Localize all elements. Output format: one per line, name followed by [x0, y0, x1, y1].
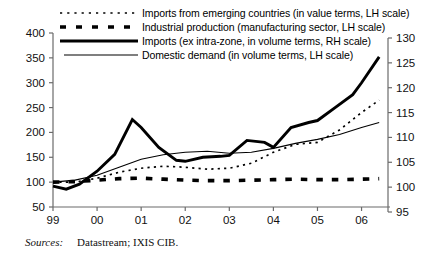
x-axis-tick-label: 00	[91, 214, 104, 226]
left-axis-tick-label: 250	[26, 102, 45, 114]
left-axis: 50100150200250300350400	[26, 27, 53, 213]
x-axis-tick-label: 04	[267, 214, 280, 226]
series-line	[53, 57, 379, 189]
source-label: Sources:	[25, 236, 63, 248]
right-axis-tick-label: 95	[396, 206, 409, 218]
right-axis-tick-label: 115	[396, 107, 414, 119]
chart-plot: 50100150200250300350400 9510010511011512…	[0, 0, 440, 259]
right-axis-tick-label: 130	[396, 32, 415, 44]
right-axis-tick-label: 125	[396, 57, 415, 69]
left-axis-tick-label: 150	[26, 151, 45, 163]
source-note: Sources:Datastream; IXIS CIB.	[25, 236, 178, 248]
series-line	[53, 178, 379, 182]
x-axis-tick-label: 01	[135, 214, 148, 226]
series-line	[53, 122, 379, 182]
left-axis-tick-label: 350	[26, 52, 45, 64]
left-axis-tick-label: 200	[26, 126, 45, 138]
right-axis: 95100105110115120125130	[388, 32, 415, 218]
right-axis-tick-label: 110	[396, 131, 414, 143]
x-axis-tick-label: 03	[223, 214, 236, 226]
left-axis-tick-label: 400	[26, 27, 45, 39]
right-axis-tick-label: 120	[396, 82, 415, 94]
left-axis-tick-label: 50	[32, 201, 45, 213]
left-axis-tick-label: 300	[26, 77, 45, 89]
right-axis-tick-label: 100	[396, 181, 415, 193]
left-axis-tick-label: 100	[26, 176, 45, 188]
x-axis-tick-label: 99	[47, 214, 60, 226]
x-axis-tick-label: 02	[179, 214, 192, 226]
x-axis: 9900010203040506	[47, 207, 390, 226]
figure-container: Imports from emerging countries (in valu…	[0, 0, 440, 259]
source-value: Datastream; IXIS CIB.	[77, 236, 178, 248]
x-axis-tick-label: 05	[311, 214, 324, 226]
right-axis-tick-label: 105	[396, 156, 415, 168]
x-axis-tick-label: 06	[355, 214, 368, 226]
series-lines	[53, 57, 379, 189]
